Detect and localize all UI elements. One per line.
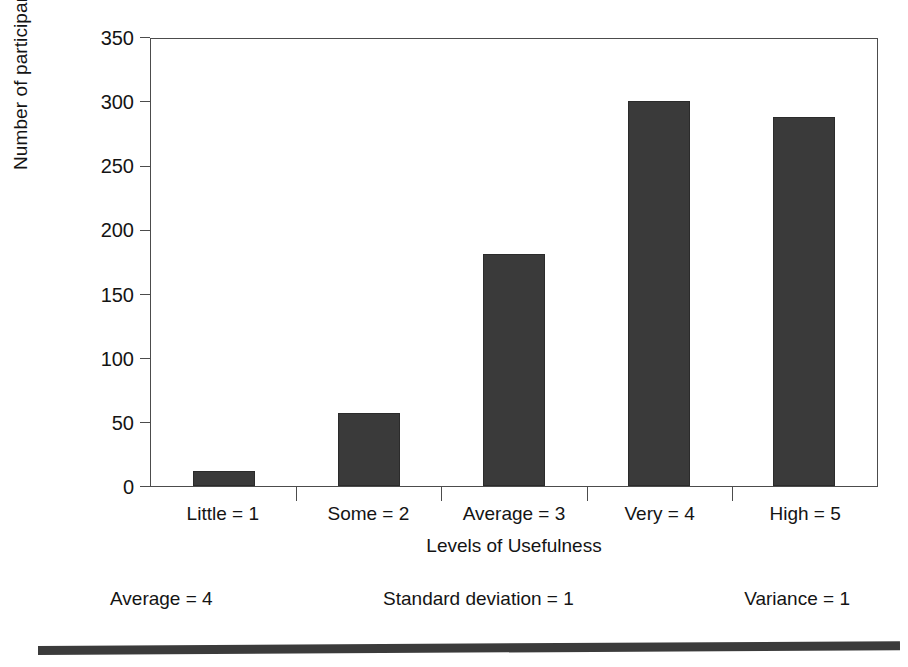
summary-stat: Standard deviation = 1 xyxy=(383,588,574,610)
bar-slot xyxy=(587,39,732,486)
x-tick-label: Very = 4 xyxy=(587,503,733,525)
y-tick-label: 350 xyxy=(64,27,134,50)
bar xyxy=(773,117,835,486)
x-tick-mark xyxy=(296,487,297,501)
y-tick-label: 0 xyxy=(64,476,134,499)
x-axis-tick-labels: Little = 1Some = 2Average = 3Very = 4Hig… xyxy=(150,503,878,525)
plot-area xyxy=(150,38,878,487)
bar xyxy=(338,413,400,486)
y-tick-mark xyxy=(140,230,150,231)
x-tick-label: Average = 3 xyxy=(441,503,587,525)
x-tick-mark xyxy=(441,487,442,501)
y-tick-label: 50 xyxy=(64,411,134,434)
x-tick-label: Some = 2 xyxy=(296,503,442,525)
y-tick-mark xyxy=(140,37,150,38)
x-tick-label: High = 5 xyxy=(732,503,878,525)
y-tick-mark xyxy=(140,358,150,359)
bar-slot xyxy=(151,39,296,486)
bar xyxy=(483,254,545,486)
bar xyxy=(193,471,255,486)
y-tick-mark xyxy=(140,294,150,295)
y-tick-label: 250 xyxy=(64,155,134,178)
bottom-rule-divider xyxy=(38,641,900,655)
bar xyxy=(628,101,690,486)
bar-chart-figure: Number of participants 05010015020025030… xyxy=(0,0,908,667)
y-tick-mark xyxy=(140,101,150,102)
y-axis-title: Number of participants xyxy=(10,0,32,170)
summary-statistics: Average = 4Standard deviation = 1Varianc… xyxy=(110,588,850,610)
y-tick-mark xyxy=(140,166,150,167)
bar-slot xyxy=(441,39,586,486)
summary-stat: Average = 4 xyxy=(110,588,213,610)
x-axis-title: Levels of Usefulness xyxy=(150,535,878,557)
bar-series xyxy=(151,39,877,486)
bar-slot xyxy=(296,39,441,486)
y-tick-label: 150 xyxy=(64,283,134,306)
y-tick-mark xyxy=(140,422,150,423)
bar-slot xyxy=(732,39,877,486)
x-tick-mark xyxy=(732,487,733,501)
x-tick-label: Little = 1 xyxy=(150,503,296,525)
y-tick-label: 100 xyxy=(64,347,134,370)
x-tick-mark xyxy=(587,487,588,501)
summary-stat: Variance = 1 xyxy=(744,588,850,610)
y-tick-mark xyxy=(140,486,150,487)
y-tick-label: 300 xyxy=(64,91,134,114)
y-tick-label: 200 xyxy=(64,219,134,242)
